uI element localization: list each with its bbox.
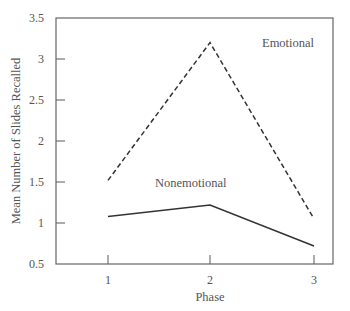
y-tick-label: 1.5 xyxy=(29,175,44,189)
plot-frame xyxy=(56,18,333,264)
y-tick-label: 3.5 xyxy=(29,11,44,25)
line-chart: 0.511.522.533.5 123 Emotional Nonemotion… xyxy=(0,0,350,311)
y-tick-label: 0.5 xyxy=(29,257,44,271)
x-tick-label: 1 xyxy=(105,273,111,287)
series-lines xyxy=(108,43,314,246)
y-axis-ticks: 0.511.522.533.5 xyxy=(29,11,65,271)
y-tick-label: 3 xyxy=(38,52,44,66)
series-label-nonemotional: Nonemotional xyxy=(155,176,227,190)
y-tick-label: 2.5 xyxy=(29,93,44,107)
series-line-nonemotional xyxy=(108,205,314,246)
x-tick-label: 3 xyxy=(311,273,317,287)
y-axis-title: Mean Number of Slides Recalled xyxy=(9,57,23,224)
y-tick-label: 1 xyxy=(38,216,44,230)
x-axis-ticks: 123 xyxy=(105,255,317,287)
y-tick-label: 2 xyxy=(38,134,44,148)
x-tick-label: 2 xyxy=(207,273,213,287)
series-line-emotional xyxy=(108,43,314,219)
x-axis-title: Phase xyxy=(195,290,225,304)
series-label-emotional: Emotional xyxy=(262,36,315,50)
